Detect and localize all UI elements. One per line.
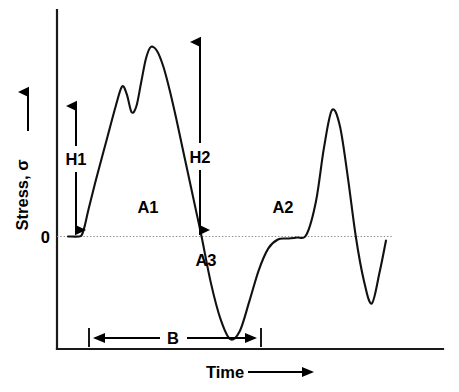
h1-label: H1 [65,150,86,168]
b-annotation: B [89,328,261,347]
h2-label: H2 [189,148,210,166]
a2-label: A2 [272,198,293,216]
y-axis-title-group: Stress, σ [13,92,31,230]
x-axis-title-group: Time [206,363,312,381]
b-label: B [167,329,179,347]
a3-label: A3 [195,251,216,269]
y-axis-title: Stress, σ [13,160,31,231]
x-axis-title: Time [206,363,244,381]
waveform-trace-group [68,47,386,340]
h2-annotation: H2 [189,42,210,230]
h1-annotation: H1 [65,106,86,230]
stress-time-chart: Stress, σ 0 H1 H2 A1 A2 A3 [0,0,459,392]
y-tick-label-zero: 0 [41,228,50,246]
figure-root: Stress, σ 0 H1 H2 A1 A2 A3 [0,0,459,392]
a1-label: A1 [137,198,158,216]
stress-waveform-trace [68,47,386,340]
